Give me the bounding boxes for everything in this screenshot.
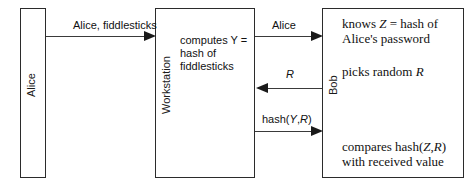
bob-knows-prefix: knows bbox=[342, 16, 379, 31]
message-label-response-suffix: ) bbox=[308, 113, 312, 125]
bob-compares-text: compares hash(Z,R)with received value bbox=[342, 139, 466, 169]
bob-picks-prefix: picks random bbox=[342, 64, 416, 79]
message-arrow-identity-line bbox=[255, 36, 313, 37]
bob-compares-suffix: ) bbox=[442, 139, 446, 154]
workstation-computes-prefix: computes Y = hash of fiddlesticks bbox=[180, 34, 247, 72]
workstation-actor-label: Workstation bbox=[161, 0, 172, 170]
bob-compares-variable-r: R bbox=[434, 139, 442, 154]
bob-compares-prefix: compares hash( bbox=[342, 139, 423, 154]
message-arrow-credentials-line bbox=[46, 36, 146, 37]
message-arrow-identity-head-icon bbox=[311, 31, 323, 41]
bob-knows-line2: Alice's password bbox=[342, 31, 430, 46]
message-arrow-response-head-icon bbox=[311, 126, 323, 136]
bob-picks-random-text: picks random R bbox=[342, 64, 462, 79]
message-label-response-variable-y: Y bbox=[290, 113, 297, 125]
message-label-response-variable-r: R bbox=[300, 113, 308, 125]
message-label-credentials: Alice, fiddlesticks bbox=[73, 19, 157, 31]
bob-compares-line2: with received value bbox=[342, 154, 444, 169]
message-label-response: hash(Y,R) bbox=[262, 113, 312, 125]
message-arrow-credentials-head-icon bbox=[144, 31, 156, 41]
bob-actor-label: Bob bbox=[328, 0, 339, 170]
bob-knows-suffix: = hash of bbox=[386, 16, 438, 31]
alice-actor-label: Alice bbox=[26, 0, 37, 170]
message-label-identity: Alice bbox=[272, 19, 296, 31]
message-label-challenge-variable: R bbox=[286, 68, 294, 80]
message-arrow-response-line bbox=[255, 131, 313, 132]
message-label-response-prefix: hash( bbox=[262, 113, 290, 125]
workstation-computation-text: computes Y = hash of fiddlesticks bbox=[180, 34, 254, 73]
protocol-diagram: Alice Workstation computes Y = hash of f… bbox=[0, 0, 473, 193]
message-arrow-challenge-line bbox=[266, 88, 322, 89]
bob-picks-variable: R bbox=[416, 64, 424, 79]
message-arrow-challenge-head-icon bbox=[256, 83, 268, 93]
message-label-challenge: R bbox=[286, 68, 294, 80]
bob-knows-text: knows Z = hash ofAlice's password bbox=[342, 16, 462, 46]
